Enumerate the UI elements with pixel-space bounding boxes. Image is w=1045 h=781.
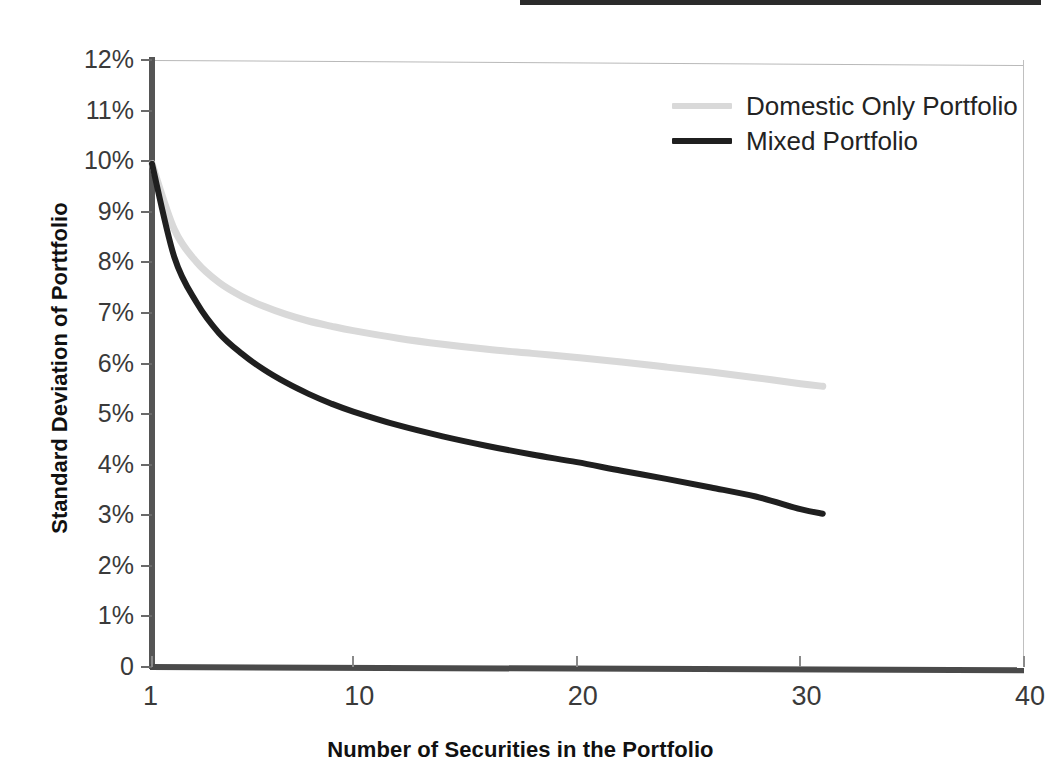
legend-label-domestic-only-portfolio: Domestic Only Portfolio <box>746 93 1018 119</box>
series-line-domestic-only-portfolio <box>152 164 823 387</box>
legend-item-mixed-portfolio: Mixed Portfolio <box>672 128 1018 154</box>
legend-item-domestic-only-portfolio: Domestic Only Portfolio <box>672 93 1018 119</box>
y-axis-title: Standard Deviation of Porttfolio <box>47 0 73 748</box>
legend-swatch-domestic-only-portfolio <box>672 103 732 109</box>
chart-legend: Domestic Only Portfolio Mixed Portfolio <box>672 93 1018 154</box>
series-line-mixed-portfolio <box>152 164 823 514</box>
x-axis-title: Number of Securities in the Portfolio <box>0 737 1041 763</box>
legend-label-mixed-portfolio: Mixed Portfolio <box>746 128 918 154</box>
legend-swatch-mixed-portfolio <box>672 138 732 144</box>
